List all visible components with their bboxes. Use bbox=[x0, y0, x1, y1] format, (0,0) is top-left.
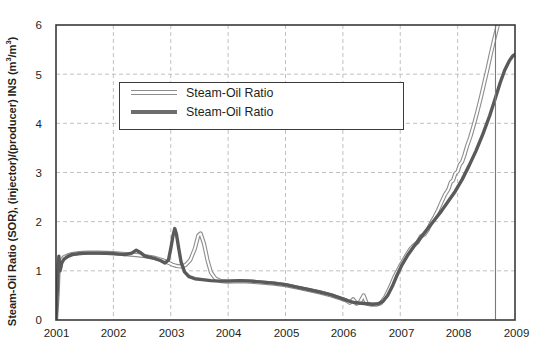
legend-swatch-solid-line-icon bbox=[131, 108, 177, 116]
legend-label-0: Steam-Oil Ratio bbox=[186, 86, 273, 100]
legend-item-1: Steam-Oil Ratio bbox=[120, 102, 403, 121]
chart-figure: Steam-Oil Ratio (SOR), (injector)/(produ… bbox=[0, 0, 552, 363]
gridlines bbox=[56, 25, 515, 320]
legend-label-1: Steam-Oil Ratio bbox=[186, 105, 273, 119]
plot-area bbox=[0, 0, 552, 363]
legend-item-0: Steam-Oil Ratio bbox=[120, 83, 403, 102]
legend-swatch-hollow-line-icon bbox=[131, 89, 177, 97]
chart-legend: Steam-Oil Ratio Steam-Oil Ratio bbox=[119, 82, 404, 130]
